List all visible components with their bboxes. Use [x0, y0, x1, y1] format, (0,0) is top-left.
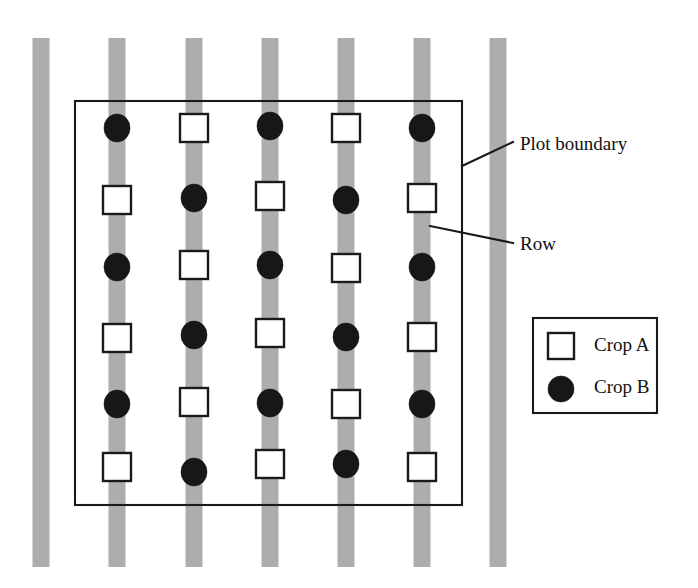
- crop-a-marker-r1-2: [103, 186, 131, 214]
- crop-a-marker-r1-4: [103, 324, 131, 352]
- row-stripe-1: [33, 38, 50, 567]
- legend-crop-a-swatch: [548, 333, 574, 359]
- row-label: Row: [520, 233, 556, 254]
- crop-b-marker-r5-3: [409, 253, 435, 281]
- crop-b-marker-r4-4: [333, 323, 359, 351]
- crop-b-marker-r1-1: [104, 114, 130, 142]
- crop-a-marker-r5-2: [408, 184, 436, 212]
- crop-b-marker-r4-2: [333, 186, 359, 214]
- crop-b-marker-r2-6: [181, 458, 207, 486]
- crop-b-marker-r2-4: [181, 321, 207, 349]
- crop-a-marker-r2-1: [180, 114, 208, 142]
- crop-a-marker-r5-4: [408, 323, 436, 351]
- legend: Crop ACrop B: [533, 318, 657, 413]
- legend-crop-b-label: Crop B: [594, 376, 649, 397]
- crop-b-marker-r1-5: [104, 390, 130, 418]
- crop-a-marker-r4-5: [332, 390, 360, 418]
- crop-b-marker-r2-2: [181, 184, 207, 212]
- legend-crop-b-swatch: [548, 376, 574, 402]
- crop-a-marker-r1-6: [103, 453, 131, 481]
- plot-layout-diagram: Plot boundaryRow Crop ACrop B: [0, 0, 698, 588]
- crop-a-marker-r3-4: [256, 319, 284, 347]
- crop-b-marker-r1-3: [104, 253, 130, 281]
- crop-a-marker-r2-3: [180, 251, 208, 279]
- crop-a-marker-r5-6: [408, 453, 436, 481]
- row-stripe-7: [490, 38, 507, 567]
- crop-a-marker-r3-6: [256, 450, 284, 478]
- crop-a-marker-r3-2: [256, 182, 284, 210]
- figure-root: Plot boundaryRow Crop ACrop B: [0, 0, 698, 588]
- crop-b-marker-r5-1: [409, 114, 435, 142]
- crop-b-marker-r3-5: [257, 389, 283, 417]
- crop-b-marker-r3-1: [257, 112, 283, 140]
- crop-b-marker-r3-3: [257, 251, 283, 279]
- crop-b-marker-r5-5: [409, 390, 435, 418]
- plot-boundary-label: Plot boundary: [520, 133, 628, 154]
- legend-crop-a-label: Crop A: [594, 334, 650, 355]
- crop-a-marker-r4-3: [332, 254, 360, 282]
- crop-a-marker-r4-1: [332, 114, 360, 142]
- crop-a-marker-r2-5: [180, 388, 208, 416]
- crop-b-marker-r4-6: [333, 450, 359, 478]
- annotation-group: Plot boundaryRow: [430, 133, 628, 254]
